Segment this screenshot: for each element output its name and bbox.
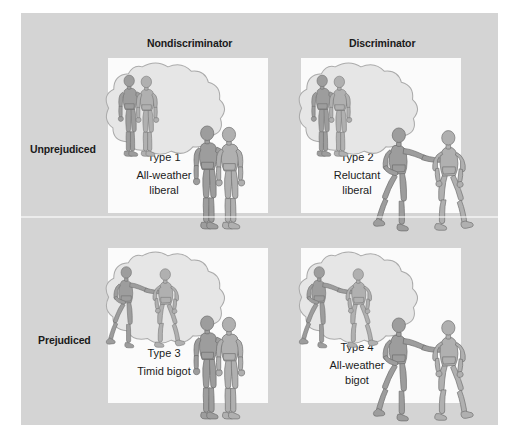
column-header-discriminator: Discriminator [349,37,415,49]
column-header-nondiscriminator: Nondiscriminator [147,37,232,49]
row-header-unprejudiced: Unprejudiced [30,143,96,155]
cell-type2-desc-line2: liberal [305,183,409,198]
merton-typology-figure: Nondiscriminator Discriminator Unprejudi… [0,0,516,442]
cell-type3-type-label: Type 3 [112,346,216,361]
cell-type2-desc-line1: Reluctant [305,168,409,183]
cell-type1-type-label: Type 1 [112,150,216,165]
cell-type1-desc-line2: liberal [112,183,216,198]
cell-type3: Type 3 Timid bigot [108,248,268,403]
cell-type4-desc-line1: All-weather [305,358,409,373]
cell-type4-caption: Type 4 All-weather bigot [305,340,409,388]
cell-type4: Type 4 All-weather bigot [301,248,461,403]
cell-type3-desc-line1: Timid bigot [112,364,216,379]
cell-type4-type-label: Type 4 [305,340,409,355]
cell-type3-caption: Type 3 Timid bigot [112,346,216,379]
cell-type1-caption: Type 1 All-weather liberal [112,150,216,198]
cell-type1-desc-line1: All-weather [112,168,216,183]
cell-type4-desc-line2: bigot [305,373,409,388]
cell-type2: Type 2 Reluctant liberal [301,58,461,213]
row-header-prejudiced: Prejudiced [38,334,91,346]
cell-type2-type-label: Type 2 [305,150,409,165]
cell-type1: Type 1 All-weather liberal [108,58,268,213]
cell-type2-caption: Type 2 Reluctant liberal [305,150,409,198]
